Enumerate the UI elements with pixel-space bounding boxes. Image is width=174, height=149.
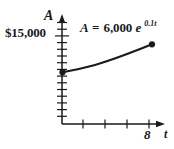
curve-end-marker xyxy=(149,41,155,47)
x-axis-name-label: t xyxy=(164,128,167,140)
y-axis-arrowhead xyxy=(59,14,66,23)
equation-coefficient: 6,000 xyxy=(103,20,132,35)
equation-base: e xyxy=(135,20,141,35)
exponential-curve xyxy=(63,44,153,72)
figure-canvas: $15,000 A 8 t A = 6,000 e 0.1t xyxy=(0,0,174,149)
x-axis-tick-label-8: 8 xyxy=(144,128,151,141)
equation-annotation: A = 6,000 e 0.1t xyxy=(80,21,156,34)
y-axis-tick-label-15000: $15,000 xyxy=(5,26,46,39)
equation-lhs: A xyxy=(80,20,88,35)
equation-operator: = xyxy=(91,20,100,35)
curve-start-marker xyxy=(59,69,65,75)
equation-exponent: 0.1t xyxy=(144,19,156,28)
y-axis-name-label: A xyxy=(44,9,53,23)
